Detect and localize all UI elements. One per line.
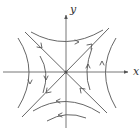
trajectory-right-outer	[106, 38, 117, 108]
trajectory-bottom-inner	[33, 101, 100, 113]
phase-portrait-diagram	[0, 0, 140, 132]
trajectory-bottom-outer	[47, 115, 86, 121]
arrow-icon	[28, 80, 32, 84]
arrow-icon	[37, 43, 42, 48]
trajectory-top-outer	[31, 30, 103, 42]
arrow-icon	[75, 40, 79, 44]
trajectory-right-inner	[87, 48, 92, 90]
arrow-icon	[100, 61, 104, 65]
trajectory-left-outer	[18, 38, 29, 108]
y-axis-label: y	[70, 4, 76, 15]
x-axis-label: x	[133, 66, 139, 77]
trajectory-left-inner	[40, 56, 46, 93]
arrow-icon	[86, 64, 90, 68]
